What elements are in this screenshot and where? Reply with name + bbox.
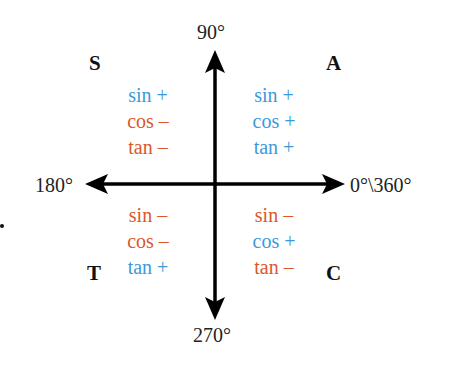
cast-diagram: 90° 180° 0°\360° 270° S A T C sin + cos … [0, 0, 451, 368]
q2-cos-sign: cos – [118, 108, 178, 134]
angle-label-0-360: 0°\360° [350, 175, 412, 195]
q4-tan-sign: tan – [244, 254, 304, 280]
stray-dot [0, 224, 4, 228]
q1-cos-sign: cos + [244, 108, 304, 134]
quadrant-3-signs: sin – cos – tan + [118, 202, 178, 280]
angle-label-270: 270° [193, 325, 231, 345]
q1-tan-sign: tan + [244, 134, 304, 160]
quadrant-letter-s: S [89, 53, 101, 74]
quadrant-4-signs: sin – cos + tan – [244, 202, 304, 280]
q1-sin-sign: sin + [244, 82, 304, 108]
quadrant-1-signs: sin + cos + tan + [244, 82, 304, 160]
quadrant-letter-c: C [326, 263, 341, 284]
quadrant-letter-a: A [326, 53, 341, 74]
angle-label-180: 180° [35, 175, 73, 195]
q4-cos-sign: cos + [244, 228, 304, 254]
quadrant-letter-t: T [87, 263, 101, 284]
angle-label-90: 90° [197, 22, 225, 42]
q3-sin-sign: sin – [118, 202, 178, 228]
q3-cos-sign: cos – [118, 228, 178, 254]
q4-sin-sign: sin – [244, 202, 304, 228]
q2-tan-sign: tan – [118, 134, 178, 160]
q2-sin-sign: sin + [118, 82, 178, 108]
q3-tan-sign: tan + [118, 254, 178, 280]
quadrant-2-signs: sin + cos – tan – [118, 82, 178, 160]
